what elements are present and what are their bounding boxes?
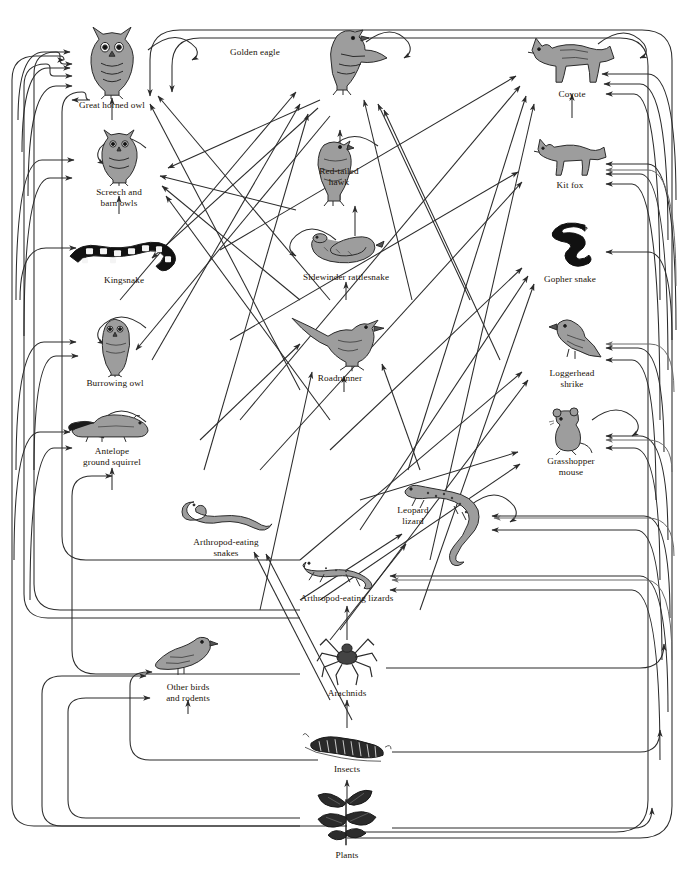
- node-kingsnake[interactable]: Kingsnake: [64, 234, 184, 286]
- node-label: Roadrunner: [280, 373, 400, 384]
- node-label: Screech and barn owls: [59, 187, 179, 208]
- node-great-horned-owl[interactable]: Great horned owl: [52, 25, 172, 111]
- node-label: Red-tailed hawk: [304, 166, 374, 187]
- node-sidewinder-rattlesnake[interactable]: Sidewinder rattlesnake: [276, 229, 416, 283]
- node-screech-and-barn-owls[interactable]: Screech and barn owls: [59, 128, 179, 208]
- node-antelope-ground-squirrel[interactable]: Antelope ground squirrel: [52, 409, 172, 467]
- owl-icon: [81, 25, 143, 99]
- plant-icon: [308, 783, 386, 849]
- node-arachnids[interactable]: Arachnids: [287, 631, 407, 699]
- mouse-icon: [546, 403, 596, 455]
- node-plants[interactable]: Plants: [287, 783, 407, 861]
- node-label: Kingsnake: [64, 275, 184, 286]
- bird-icon: [150, 633, 226, 681]
- node-label: Grasshopper mouse: [511, 456, 631, 477]
- food-web-diagram: Great horned owl Golden eagle Coyote: [0, 0, 682, 874]
- node-label: Insects: [287, 764, 407, 775]
- node-label: Gopher snake: [510, 274, 630, 285]
- caterpillar-icon: [301, 729, 393, 763]
- node-label: Antelope ground squirrel: [52, 446, 172, 467]
- node-insects[interactable]: Insects: [287, 729, 407, 775]
- roadrunner-icon: [290, 312, 390, 372]
- node-loggerhead-shrike[interactable]: Loggerhead shrike: [512, 315, 632, 389]
- node-golden-eagle[interactable]: Golden eagle: [288, 24, 408, 96]
- node-label: Leopard lizard: [378, 505, 448, 526]
- owl-icon: [89, 315, 141, 377]
- node-label: Arthropod-eating snakes: [166, 537, 286, 558]
- node-label: Kit fox: [510, 180, 630, 191]
- node-label: Plants: [287, 850, 407, 861]
- node-other-birds-and-rodents[interactable]: Other birds and rodents: [128, 633, 248, 703]
- owl-icon: [94, 128, 144, 186]
- node-label: Arthropod-eating lizards: [272, 593, 422, 604]
- snake-icon: [178, 492, 274, 536]
- node-label: Sidewinder rattlesnake: [276, 272, 416, 283]
- coyote-icon: [526, 32, 618, 88]
- node-label: Coyote: [512, 89, 632, 100]
- lizard-icon: [300, 552, 394, 592]
- node-label: Other birds and rodents: [128, 682, 248, 703]
- node-label: Great horned owl: [52, 100, 172, 111]
- node-label: Golden eagle: [210, 47, 300, 58]
- node-label: Loggerhead shrike: [512, 368, 632, 389]
- eagle-icon: [307, 24, 389, 96]
- rattlesnake-icon: [306, 229, 386, 271]
- node-label: Arachnids: [287, 688, 407, 699]
- node-roadrunner[interactable]: Roadrunner: [280, 312, 400, 384]
- fox-icon: [532, 135, 608, 179]
- kingsnake-icon: [66, 234, 182, 274]
- node-arthropod-eating-lizards[interactable]: Arthropod-eating lizards: [272, 552, 422, 604]
- squirrel-icon: [68, 409, 156, 445]
- node-coyote[interactable]: Coyote: [512, 32, 632, 100]
- node-gopher-snake[interactable]: Gopher snake: [510, 219, 630, 285]
- spider-icon: [314, 631, 380, 687]
- node-kit-fox[interactable]: Kit fox: [510, 135, 630, 191]
- node-burrowing-owl[interactable]: Burrowing owl: [55, 315, 175, 389]
- shrike-icon: [541, 315, 603, 367]
- node-grasshopper-mouse[interactable]: Grasshopper mouse: [511, 403, 631, 477]
- gophersnake-icon: [539, 219, 601, 273]
- node-arthropod-eating-snakes[interactable]: Arthropod-eating snakes: [166, 492, 286, 558]
- node-red-tailed-hawk[interactable]: Red-tailed hawk: [270, 137, 390, 207]
- node-label: Burrowing owl: [55, 378, 175, 389]
